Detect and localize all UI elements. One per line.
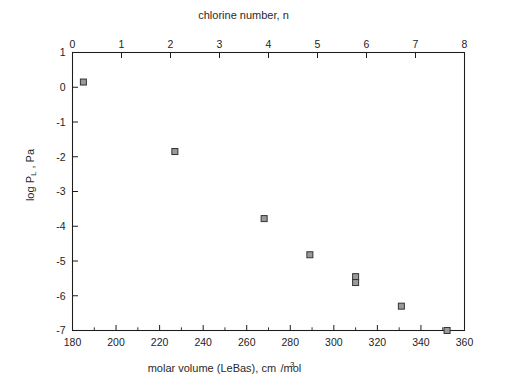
top-tick-label: 8 <box>462 38 468 50</box>
y-axis-title: log PL , Pa <box>24 120 38 230</box>
top-tick-label: 1 <box>119 38 125 50</box>
y-tick-label: -2 <box>56 151 65 163</box>
top-tick-label: 4 <box>266 38 272 50</box>
top-tick-label: 6 <box>364 38 370 50</box>
x-tick-label: 260 <box>238 336 256 348</box>
y-tick-label: 1 <box>60 46 66 58</box>
chart-container: chlorine number, n 180200220240260280300… <box>0 0 505 388</box>
x-axis-tick-labels: 180200220240260280300320340360 <box>64 336 474 348</box>
x-tick-label: 200 <box>107 336 125 348</box>
top-tick-label: 5 <box>315 38 321 50</box>
x-tick-label: 300 <box>325 336 343 348</box>
x-tick-label: 360 <box>456 336 474 348</box>
data-point-marker <box>353 280 359 286</box>
data-point-marker <box>398 303 404 309</box>
top-tick-label: 3 <box>217 38 223 50</box>
x-tick-label: 340 <box>412 336 430 348</box>
data-point-marker <box>261 216 267 222</box>
x-tick-label: 180 <box>64 336 82 348</box>
x-axis-title: molar volume (LeBas), cm3/mol <box>0 360 505 374</box>
y-axis-tick-labels: 10-1-2-3-4-5-6-7 <box>56 46 66 336</box>
top-tick-label: 2 <box>168 38 174 50</box>
y-tick-label: 0 <box>60 81 66 93</box>
data-markers <box>80 79 450 333</box>
top-axis-tick-labels: 012345678 <box>70 38 468 50</box>
top-axis-ticks <box>73 53 465 59</box>
data-point-marker <box>307 252 313 258</box>
data-point-marker <box>353 274 359 280</box>
y-axis-title-subscript: L <box>29 172 38 176</box>
x-tick-label: 220 <box>151 336 169 348</box>
data-point-marker <box>444 328 450 334</box>
x-axis-ticks <box>73 325 465 331</box>
x-tick-label: 280 <box>282 336 300 348</box>
x-axis-title-main: molar volume (LeBas), cm <box>148 362 276 374</box>
x-tick-label: 240 <box>194 336 212 348</box>
y-axis-title-tail: , Pa <box>24 149 36 172</box>
data-point-marker <box>172 149 178 155</box>
top-tick-label: 7 <box>413 38 419 50</box>
x-axis-title-tail: /mol <box>281 362 302 374</box>
top-tick-label: 0 <box>70 38 76 50</box>
y-tick-label: -3 <box>56 185 65 197</box>
y-tick-label: -1 <box>56 116 65 128</box>
y-tick-label: -7 <box>56 324 65 336</box>
y-axis-title-main: log P <box>24 176 36 201</box>
x-axis-title-text: molar volume (LeBas), cm3/mol <box>162 360 316 374</box>
y-tick-label: -6 <box>56 290 65 302</box>
data-point-marker <box>80 79 86 85</box>
plot-frame <box>73 53 465 331</box>
y-axis-ticks <box>73 53 79 331</box>
x-tick-label: 320 <box>369 336 387 348</box>
y-tick-label: -5 <box>56 255 65 267</box>
y-tick-label: -4 <box>56 220 65 232</box>
scatter-plot-svg: 180200220240260280300320340360 10-1-2-3-… <box>0 0 505 388</box>
